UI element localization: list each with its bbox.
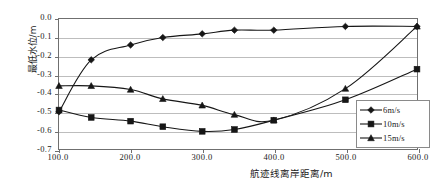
legend-item-6m-s[interactable]: 6m/s (359, 103, 426, 117)
legend-item-15m-s[interactable]: 15m/s (359, 131, 426, 145)
series-line (59, 26, 417, 112)
x-axis-title: 航迹线离岸距离/m (250, 168, 332, 179)
y-tick-label: -0.3 (18, 70, 52, 79)
x-tick-label: 600.0 (396, 152, 440, 162)
chart-container: 最低水位/m 0.0-0.1-0.2-0.3-0.4-0.5-0.6-0.7 1… (0, 0, 443, 194)
y-tick-label: -0.5 (18, 107, 52, 116)
y-tick-label: -0.6 (18, 126, 52, 135)
data-point-marker (160, 124, 166, 130)
data-point-marker (199, 31, 206, 37)
triangle-marker-icon (359, 132, 383, 144)
legend-label: 6m/s (383, 105, 400, 115)
data-point-marker (342, 23, 349, 30)
legend-label: 15m/s (383, 133, 405, 143)
legend-item-10m-s[interactable]: 10m/s (359, 117, 426, 131)
data-point-marker (368, 121, 374, 127)
x-tick-label: 500.0 (324, 152, 368, 162)
x-tick-label: 200.0 (108, 152, 152, 162)
square-marker-icon (359, 118, 383, 130)
y-tick-label: -0.2 (18, 51, 52, 60)
y-tick-label: 0.0 (18, 13, 52, 22)
x-tick-label: 300.0 (180, 152, 224, 162)
data-point-marker (128, 118, 134, 124)
data-point-marker (343, 97, 349, 103)
diamond-marker-icon (359, 104, 383, 116)
data-point-marker (56, 107, 62, 113)
data-point-marker (368, 107, 375, 114)
data-point-marker (414, 66, 420, 72)
data-point-marker (127, 42, 134, 49)
y-tick-label: -0.4 (18, 88, 52, 97)
x-tick-label: 100.0 (36, 152, 80, 162)
data-point-marker (160, 34, 167, 40)
data-point-marker (232, 127, 238, 133)
y-tick-label: -0.1 (18, 32, 52, 41)
data-point-marker (342, 85, 349, 91)
legend-label: 10m/s (383, 119, 405, 129)
x-tick-label: 400.0 (252, 152, 296, 162)
data-point-marker (271, 27, 278, 34)
chart-legend: 6m/s10m/s15m/s (356, 100, 430, 148)
data-point-marker (88, 115, 94, 121)
data-point-marker (199, 129, 205, 135)
data-point-marker (231, 27, 238, 34)
